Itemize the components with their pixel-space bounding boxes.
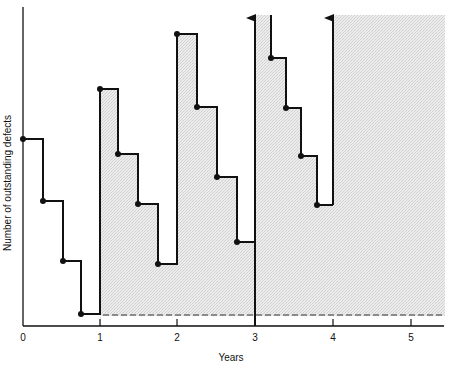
data-point bbox=[268, 55, 274, 61]
below-residual-area bbox=[101, 316, 445, 325]
x-tick-label-4: 4 bbox=[330, 332, 336, 343]
x-tick-label-1: 1 bbox=[97, 332, 103, 343]
shaded-region-year2 bbox=[177, 34, 255, 326]
x-tick-label-3: 3 bbox=[252, 332, 258, 343]
data-point bbox=[214, 174, 220, 180]
data-point bbox=[135, 201, 141, 207]
x-tick-label-5: 5 bbox=[408, 332, 414, 343]
data-point bbox=[283, 105, 289, 111]
step-curve-year0 bbox=[23, 89, 100, 314]
data-point bbox=[298, 153, 304, 159]
data-point bbox=[234, 239, 240, 245]
shaded-region-year1 bbox=[100, 89, 177, 326]
data-point bbox=[97, 86, 103, 92]
data-point bbox=[314, 202, 320, 208]
y-axis-title: Number of outstanding defects bbox=[2, 115, 13, 251]
data-point bbox=[115, 151, 121, 157]
data-point bbox=[78, 311, 84, 317]
data-point bbox=[20, 136, 26, 142]
x-tick-labels: 0 1 2 3 4 5 bbox=[20, 332, 414, 343]
x-tick-label-2: 2 bbox=[174, 332, 180, 343]
data-point bbox=[40, 198, 46, 204]
data-point bbox=[194, 104, 200, 110]
data-point bbox=[155, 261, 161, 267]
defects-step-chart: 0 1 2 3 4 5 Years Number of outstanding … bbox=[0, 0, 451, 367]
data-point bbox=[60, 258, 66, 264]
x-tick-label-0: 0 bbox=[20, 332, 26, 343]
shaded-region-year3 bbox=[255, 15, 333, 326]
shaded-region-beyond bbox=[333, 15, 445, 326]
x-axis-title: Years bbox=[218, 352, 243, 363]
shaded-area bbox=[100, 15, 445, 326]
data-point bbox=[174, 31, 180, 37]
